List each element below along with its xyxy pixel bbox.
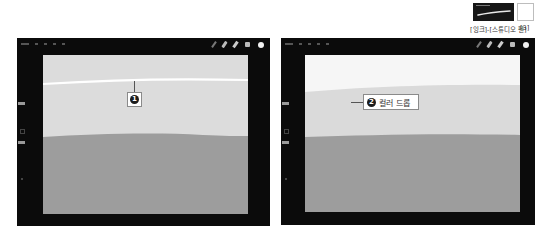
callout-number: 1 xyxy=(130,95,139,104)
actions-icon[interactable] xyxy=(299,43,302,45)
actions-icon[interactable] xyxy=(35,43,38,45)
brush-icon[interactable] xyxy=(476,41,482,48)
canvas-artwork xyxy=(43,55,248,214)
brush-size-slider[interactable] xyxy=(18,102,25,105)
selection-icon[interactable] xyxy=(53,43,56,45)
procreate-screen-left: 1 xyxy=(17,38,270,226)
callout-label: 컬러 드롭 xyxy=(379,97,410,108)
brush-size-slider[interactable] xyxy=(282,102,289,105)
undo-icon[interactable] xyxy=(285,178,287,180)
callout-leader-line xyxy=(351,102,363,103)
smudge-icon[interactable] xyxy=(221,41,227,48)
callout-number: 2 xyxy=(367,98,376,107)
top-toolbar xyxy=(17,38,270,54)
modify-button[interactable] xyxy=(284,129,289,134)
transform-icon[interactable] xyxy=(326,43,329,45)
layers-icon[interactable] xyxy=(510,42,515,47)
color-icon[interactable] xyxy=(523,42,529,48)
smudge-icon[interactable] xyxy=(486,41,492,48)
brush-preview-thumbnail xyxy=(473,3,514,21)
color-swatch xyxy=(517,3,534,21)
eraser-icon[interactable] xyxy=(232,41,238,48)
callout-2: 2 컬러 드롭 xyxy=(363,94,419,110)
callout-1: 1 xyxy=(127,92,142,107)
callout-leader-line xyxy=(134,81,135,92)
top-toolbar xyxy=(281,38,535,54)
adjustments-icon[interactable] xyxy=(44,43,47,45)
side-toolbar xyxy=(281,38,295,225)
opacity-slider[interactable] xyxy=(18,141,25,144)
brush-caption: [잉크]-[스튜디오 펜] xyxy=(470,24,527,34)
toolbar-right-tools xyxy=(478,41,529,48)
swatch-caption: [3] xyxy=(520,24,529,32)
brush-icon[interactable] xyxy=(211,41,217,48)
opacity-slider[interactable] xyxy=(282,141,289,144)
undo-icon[interactable] xyxy=(21,178,23,180)
eraser-icon[interactable] xyxy=(497,41,503,48)
color-icon[interactable] xyxy=(258,42,264,48)
canvas-artwork xyxy=(305,55,520,212)
selection-icon[interactable] xyxy=(317,43,320,45)
layers-icon[interactable] xyxy=(245,42,250,47)
brush-stroke-icon xyxy=(473,3,514,21)
adjustments-icon[interactable] xyxy=(308,43,311,45)
procreate-screen-right: 2 컬러 드롭 xyxy=(281,38,535,225)
modify-button[interactable] xyxy=(20,129,25,134)
transform-icon[interactable] xyxy=(62,43,65,45)
canvas[interactable]: 1 xyxy=(43,55,248,214)
toolbar-right-tools xyxy=(213,41,264,48)
side-toolbar xyxy=(17,38,31,226)
canvas[interactable]: 2 컬러 드롭 xyxy=(305,55,520,212)
